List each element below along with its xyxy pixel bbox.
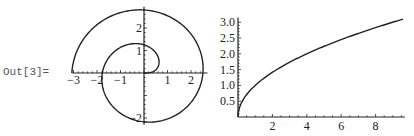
x-tick-label: 8 bbox=[373, 119, 379, 133]
sqrt-line-plot: 24680.51.01.52.02.53.0 bbox=[220, 15, 405, 133]
y-tick-label: 3.0 bbox=[220, 15, 235, 29]
x-tick-label: −1 bbox=[114, 73, 127, 87]
y-tick-label: 1 bbox=[136, 44, 142, 58]
y-tick-label: 1.0 bbox=[220, 78, 235, 92]
y-tick-label: 2 bbox=[136, 21, 142, 35]
polar-spiral-plot: −3−2−112−212 bbox=[67, 7, 207, 125]
x-tick-label: 1 bbox=[165, 73, 171, 87]
plots-canvas: −3−2−112−212 24680.51.01.52.02.53.0 bbox=[0, 0, 414, 136]
y-tick-label: 0.5 bbox=[220, 94, 235, 108]
y-tick-label: 1.5 bbox=[220, 63, 235, 77]
sqrt-curve bbox=[238, 19, 403, 117]
y-tick-label: 2.5 bbox=[220, 31, 235, 45]
x-tick-label: 2 bbox=[188, 73, 194, 87]
y-tick-label: −2 bbox=[129, 111, 142, 125]
x-tick-label: 2 bbox=[269, 119, 275, 133]
y-tick-label: 2.0 bbox=[220, 47, 235, 61]
x-tick-label: 6 bbox=[338, 119, 344, 133]
x-tick-label: 4 bbox=[304, 119, 310, 133]
x-tick-label: −3 bbox=[67, 73, 80, 87]
